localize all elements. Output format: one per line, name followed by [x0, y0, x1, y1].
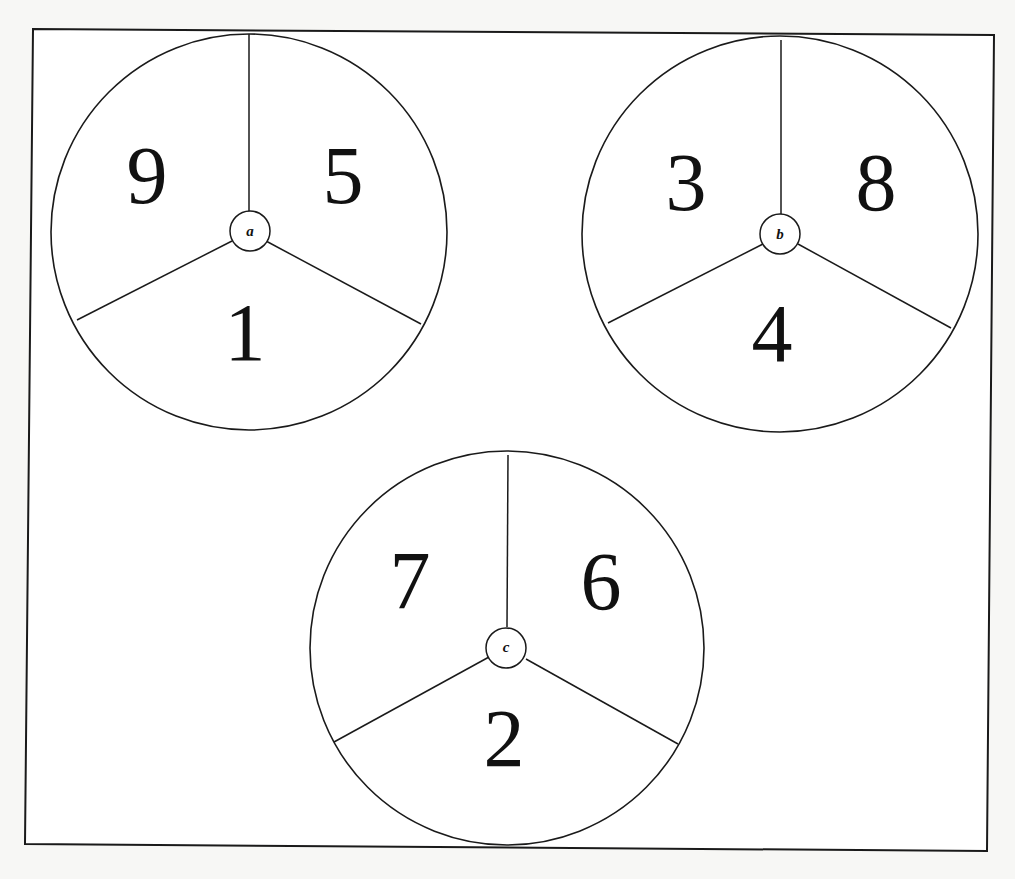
spinner-b-sector-bottom: 4 — [752, 288, 793, 379]
spinner-figure: a 9 5 1 b 3 8 4 c 7 6 2 — [0, 0, 1015, 879]
spinner-c-sector-top-right: 6 — [581, 536, 622, 627]
spinner-a-label: a — [246, 223, 254, 239]
spinner-c: c 7 6 2 — [310, 451, 704, 845]
spinner-b-sector-top-right: 8 — [856, 137, 897, 228]
spinner-c-label: c — [503, 639, 510, 655]
spinner-a-sector-bottom: 1 — [225, 287, 266, 378]
spinner-c-divider-top — [507, 455, 508, 627]
spinner-c-sector-top-left: 7 — [390, 535, 431, 626]
spinner-b: b 3 8 4 — [582, 36, 978, 432]
spinner-b-sector-top-left: 3 — [666, 137, 707, 228]
spinner-a-sector-top-left: 9 — [127, 130, 168, 221]
spinner-a: a 9 5 1 — [51, 34, 447, 430]
spinner-a-sector-top-right: 5 — [323, 130, 364, 221]
spinner-c-sector-bottom: 2 — [484, 693, 525, 784]
spinner-b-label: b — [776, 226, 784, 242]
